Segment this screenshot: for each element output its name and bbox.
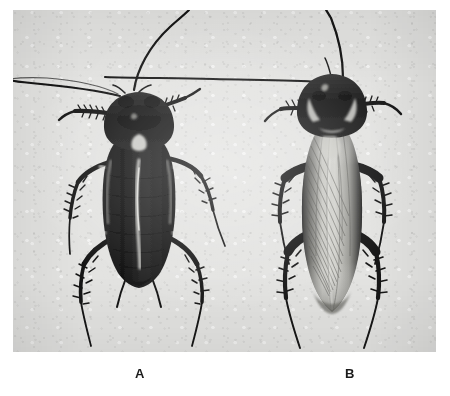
print-vignette: [13, 10, 436, 352]
photograph: [13, 10, 436, 352]
caption-label-b: B: [330, 366, 370, 381]
figure-plate: A B: [0, 0, 450, 396]
figure-caption-row: A B: [13, 352, 436, 396]
caption-label-a: A: [120, 366, 160, 381]
